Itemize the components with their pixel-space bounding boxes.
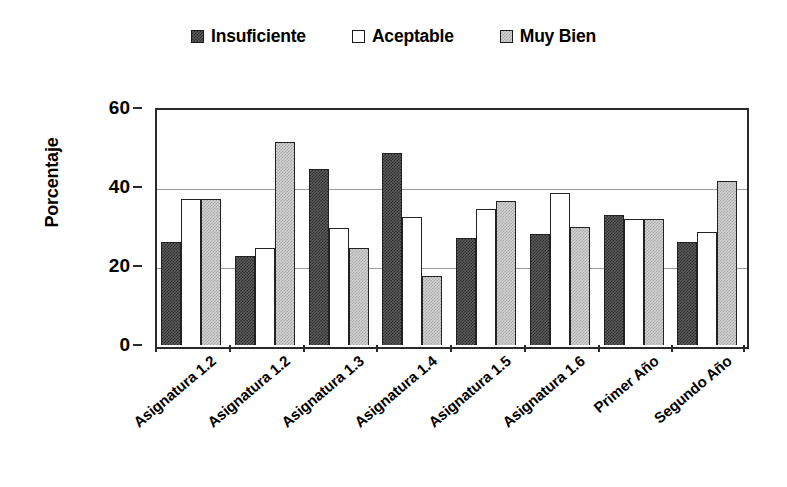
legend-label-aceptable: Aceptable — [372, 28, 454, 46]
legend-swatch-icon-aceptable — [352, 30, 365, 43]
y-tick-label-0: 0 — [119, 334, 130, 356]
y-tickmark-0 — [133, 344, 142, 346]
legend-item-muy-bien: Muy Bien — [500, 28, 596, 46]
x-tick-label-text: Primer Año — [590, 352, 662, 416]
y-tick-label-60: 60 — [109, 97, 130, 119]
bar-group — [155, 108, 229, 345]
legend-item-aceptable: Aceptable — [352, 28, 454, 46]
legend-swatch-icon-muy-bien — [500, 30, 513, 43]
y-tick-label-40: 40 — [109, 176, 130, 198]
bar — [201, 199, 221, 345]
bar — [644, 219, 664, 345]
legend-label-insuficiente: Insuficiente — [211, 28, 306, 46]
bar — [181, 199, 201, 345]
y-axis-tick-labels: 0204060 — [96, 108, 142, 345]
bar — [570, 227, 590, 346]
bar — [161, 242, 181, 345]
y-tickmark-60 — [133, 107, 142, 109]
legend-item-insuficiente: Insuficiente — [191, 28, 306, 46]
x-axis-tick-labels: Asignatura 1.2Asignatura 1.2Asignatura 1… — [155, 352, 745, 472]
y-tick-label-20: 20 — [109, 255, 130, 277]
bar — [717, 181, 737, 345]
y-axis-title: Porcentaje — [42, 113, 63, 253]
bar — [496, 201, 516, 345]
legend-swatch-icon-insuficiente — [191, 30, 204, 43]
y-tickmark-20 — [133, 265, 142, 267]
chart-legend: Insuficiente Aceptable Muy Bien — [0, 28, 787, 46]
legend-label-muy-bien: Muy Bien — [520, 28, 596, 46]
bars-layer — [155, 108, 745, 345]
y-tickmark-40 — [133, 186, 142, 188]
x-tickmark — [155, 345, 157, 352]
